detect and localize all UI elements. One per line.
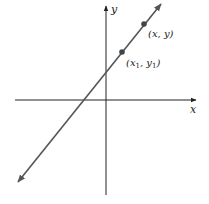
line [18, 4, 161, 182]
point-x1-y1-label: (x1, y1) [126, 57, 161, 70]
y-axis-label: y [110, 3, 118, 16]
label-part: , y [140, 57, 152, 68]
point-x1-y1 [119, 49, 125, 55]
point-x-y-label: (x, y) [148, 28, 174, 39]
coordinate-plane: y x (x, y) (x1, y1) [0, 0, 209, 204]
point-x-y [141, 21, 147, 27]
label-part: ) [156, 57, 161, 68]
x-axis-label: x [190, 103, 197, 116]
label-part: (x [126, 57, 136, 68]
